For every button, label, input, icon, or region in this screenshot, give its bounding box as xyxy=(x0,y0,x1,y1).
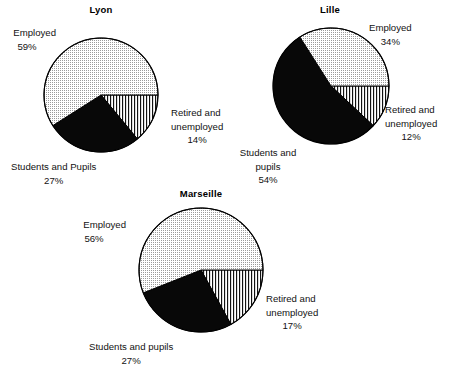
pie-label-marseille-students-text: Students and pupils xyxy=(89,340,173,354)
pie-label-marseille-employed-text: Employed xyxy=(62,218,126,232)
pie-label-lille-employed-value: 34% xyxy=(369,35,412,49)
pie-label-lyon-employed-value: 59% xyxy=(0,40,56,54)
pie-label-lyon-retired-line2: unemployed xyxy=(171,120,223,134)
pie-label-lille-retired-line1: Retired and xyxy=(385,103,437,117)
pie-label-lille-retired-value: 12% xyxy=(385,130,437,144)
pie-chart-marseille xyxy=(137,206,265,334)
pie-label-lille-retired: Retired and unemployed 12% xyxy=(385,103,437,144)
pie-label-marseille-students: Students and pupils 27% xyxy=(89,340,173,367)
pie-label-lille-retired-line2: unemployed xyxy=(385,117,437,131)
pie-label-lyon-retired-line1: Retired and xyxy=(171,106,223,120)
pie-label-marseille-employed-value: 56% xyxy=(62,232,126,246)
pie-label-lille-students-line2: pupils xyxy=(240,160,297,174)
pie-label-lyon-students-text: Students and Pupils xyxy=(11,160,96,174)
pie-label-lyon-retired-value: 14% xyxy=(171,133,223,147)
pie-label-lyon-retired: Retired and unemployed 14% xyxy=(171,106,223,147)
chart-title-lyon: Lyon xyxy=(89,4,112,15)
pie-label-marseille-retired: Retired and unemployed 17% xyxy=(266,292,318,333)
pie-label-marseille-employed: Employed 56% xyxy=(62,218,126,245)
pie-label-lille-students: Students and pupils 54% xyxy=(240,146,297,187)
pie-label-marseille-retired-value: 17% xyxy=(266,319,318,333)
pie-label-lyon-employed-text: Employed xyxy=(0,26,56,40)
pie-label-lyon-students: Students and Pupils 27% xyxy=(11,160,96,187)
chart-title-marseille: Marseille xyxy=(180,188,222,199)
pie-label-lyon-employed: Employed 59% xyxy=(0,26,56,53)
pie-label-lille-employed: Employed 34% xyxy=(369,21,412,48)
pie-label-lyon-students-value: 27% xyxy=(11,174,96,188)
pie-label-lille-students-value: 54% xyxy=(240,173,297,187)
chart-title-lille: Lille xyxy=(320,4,340,15)
pie-chart-lyon xyxy=(38,32,164,158)
pie-label-lille-employed-text: Employed xyxy=(369,21,412,35)
pie-chart-figure: Lyon Employed 59% Retired and unemployed… xyxy=(0,0,452,374)
pie-label-lille-students-line1: Students and xyxy=(240,146,297,160)
pie-label-marseille-retired-line2: unemployed xyxy=(266,306,318,320)
pie-label-marseille-retired-line1: Retired and xyxy=(266,292,318,306)
pie-label-marseille-students-value: 27% xyxy=(89,354,173,368)
